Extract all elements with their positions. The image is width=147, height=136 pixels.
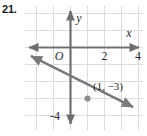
- point-annotation: (1, −3): [93, 80, 123, 93]
- grid-lines: [25, 6, 143, 130]
- origin-label: O: [55, 49, 64, 63]
- graph-canvas: O x y 2 4 -4 (1, −3): [25, 6, 143, 130]
- y-tick-label-minus-4: -4: [50, 109, 60, 123]
- x-tick-label-4: 4: [135, 49, 141, 63]
- y-axis-label: y: [75, 11, 82, 25]
- coordinate-graph: O x y 2 4 -4 (1, −3): [25, 6, 143, 130]
- problem-number: 21.: [2, 4, 17, 15]
- x-axis-label: x: [125, 26, 132, 40]
- exercise-figure: 21.: [0, 0, 147, 136]
- plotted-point: [84, 95, 90, 101]
- x-tick-label-2: 2: [102, 49, 108, 63]
